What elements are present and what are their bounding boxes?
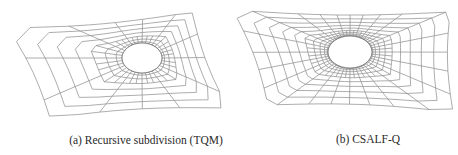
mesh-edge [253,11,331,44]
mesh-edge [277,63,334,104]
mesh-edge [264,60,331,88]
mesh-edge [370,58,391,64]
mesh-edge [162,61,176,63]
mesh-hole [328,36,372,68]
mesh-edge [96,46,123,53]
mesh-hole [122,43,162,73]
mesh-edge [152,71,180,108]
mesh-edge [96,61,122,64]
figure: (a) Recursive subdivision (TQM) (b) CSAL… [0,0,458,155]
mesh-edge [361,15,381,38]
caption-panel-b: (b) CSALF-Q [336,133,400,145]
mesh-edge [152,15,176,45]
mesh-edge [350,68,351,104]
mesh-recursive-subdivision [17,13,221,116]
mesh-edge [157,68,176,80]
mesh-edge [307,48,328,50]
mesh-edge [371,33,448,48]
mesh-csalf-q [237,11,452,109]
mesh-edge [122,40,129,47]
mesh-edge [100,71,132,112]
caption-panel-a: (a) Recursive subdivision (TQM) [69,134,223,146]
mesh-figure-canvas [0,0,458,155]
mesh-edge [159,66,219,92]
mesh-edge [369,60,450,94]
